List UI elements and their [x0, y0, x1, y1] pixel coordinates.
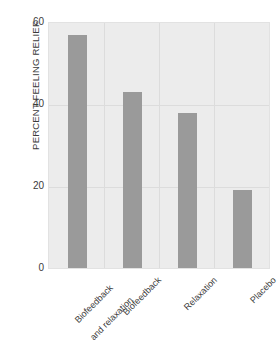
- bar-placebo: [233, 190, 252, 268]
- x-label-placebo: Placebo: [224, 275, 278, 330]
- bar-biofeedback: [123, 92, 142, 268]
- x-axis-category-labels: Biofeedback and relaxation Biofeedback R…: [48, 269, 270, 349]
- y-tick-label-40: 40: [18, 99, 44, 109]
- plot-area: [48, 22, 270, 269]
- y-tick-label-60: 60: [18, 17, 44, 27]
- x-label-relaxation: Relaxation: [165, 275, 220, 330]
- bar-chart-figure: PERCENT FEELING RELIEF 60 40 20 0 Biofee…: [0, 0, 278, 349]
- y-axis-tick-labels: 60 40 20 0: [14, 0, 44, 349]
- bar-biofeedback-and-relaxation: [68, 35, 87, 268]
- bar-relaxation: [178, 113, 197, 268]
- bars-layer: [49, 23, 269, 268]
- y-tick-label-0: 0: [18, 263, 44, 273]
- y-tick-label-20: 20: [18, 181, 44, 191]
